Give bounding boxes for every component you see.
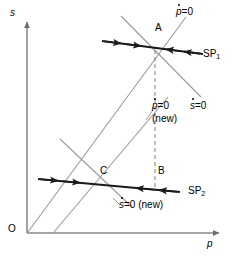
x-axis-label: p <box>207 239 213 249</box>
s-dot-zero-new-label: s=0 (new) <box>119 200 163 210</box>
sp1-arrow-right-outer <box>184 52 200 54</box>
p-dot-zero-eq: =0 <box>182 6 193 17</box>
point-label-b: B <box>158 166 165 176</box>
sp1-arrow-left-outer <box>104 41 121 43</box>
sp2-arrow-right-outer <box>159 190 177 192</box>
point-label-a: A <box>155 23 162 33</box>
y-axis-label: s <box>10 8 15 18</box>
point-label-c: C <box>100 166 107 176</box>
diagram-canvas <box>0 0 233 259</box>
s-dot-zero-new-suffix: (new) <box>135 199 163 210</box>
saddle-path-1-label: SP1 <box>203 49 220 60</box>
phase-diagram-figure: s p O A B C p=0 s=0 p=0 (new) s=0 (new) … <box>0 0 233 259</box>
sp2-arrow-left-outer <box>40 179 58 181</box>
p-dot-zero-new-line <box>54 97 168 232</box>
sp2-subscript: 2 <box>201 190 205 197</box>
sp1-arrow-right-inner <box>166 49 181 51</box>
sp2-base: SP <box>188 185 201 196</box>
sp1-subscript: 1 <box>216 53 220 60</box>
sp1-base: SP <box>203 48 216 59</box>
s-dot-zero-eq: =0 <box>195 100 206 111</box>
sp2-arrow-right-inner <box>136 188 155 190</box>
s-dot-zero-new-var: s <box>119 200 124 210</box>
origin-label: O <box>8 224 16 234</box>
p-dot-zero-label: p=0 <box>176 7 193 17</box>
saddle-path-1-group <box>102 41 203 54</box>
p-dot-zero-new-label: p=0 <box>152 101 169 111</box>
s-dot-zero-label: s=0 <box>190 101 206 111</box>
p-dot-zero-new-eq: =0 <box>158 100 169 111</box>
s-dot-zero-var: s <box>190 101 195 111</box>
p-dot-zero-new-suffix: (new) <box>152 114 177 124</box>
p-dot-zero-new-var: p <box>152 101 158 111</box>
saddle-path-2-label: SP2 <box>188 186 205 197</box>
s-dot-zero-new-eq: =0 <box>124 199 135 210</box>
sp1-arrow-left-inner <box>124 44 141 46</box>
p-dot-zero-var: p <box>176 7 182 17</box>
